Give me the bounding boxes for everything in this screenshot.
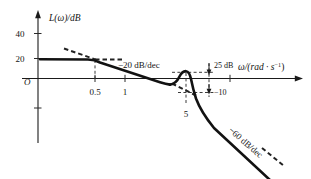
slope-label-low: −20 dB/dec	[118, 60, 160, 70]
minus-ten-label: −10	[214, 88, 227, 97]
arrow-minus10-head	[207, 89, 212, 95]
magnitude-curve-group	[40, 59, 270, 179]
peak-height-label: 25 dB	[214, 61, 233, 70]
slope-label-high: −60 dB/dec	[227, 125, 265, 160]
bode-plot-canvas: L(ω)/dB ω/(rad · s−1) O 40 20 0.5 1 5 −2…	[0, 0, 311, 179]
x-axis-label-main: ω/(rad · s	[238, 62, 275, 73]
x-axis-label-exponent: −1	[275, 61, 282, 68]
x-axis-label: ω/(rad · s−1)	[238, 61, 284, 73]
x-tick-label-1: 1	[123, 87, 128, 97]
x-axis-label-close: )	[281, 62, 284, 73]
y-axis-arrowhead	[35, 10, 41, 18]
y-axis-label: L(ω)/dB	[48, 13, 81, 24]
asymptote-low-extension	[64, 49, 96, 60]
axis-group	[22, 10, 303, 143]
labels-group: L(ω)/dB ω/(rad · s−1) O 40 20 0.5 1 5 −2…	[16, 13, 285, 160]
bode-plot-figure: L(ω)/dB ω/(rad · s−1) O 40 20 0.5 1 5 −2…	[0, 0, 311, 179]
y-tick-label-20: 20	[16, 54, 26, 64]
x-tick-label-05: 0.5	[89, 87, 101, 97]
x-tick-label-5: 5	[184, 109, 189, 119]
origin-label: O	[24, 77, 31, 87]
y-axis-label-text: L(ω)/dB	[48, 13, 81, 24]
asymptote-high-extension	[262, 148, 284, 166]
x-axis-arrowhead	[295, 76, 303, 82]
y-tick-label-40: 40	[16, 29, 26, 39]
